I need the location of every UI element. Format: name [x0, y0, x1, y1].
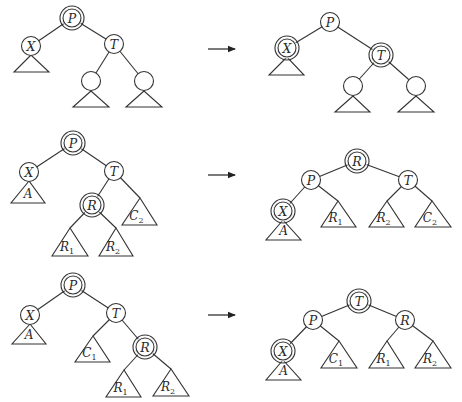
node-label: X — [278, 204, 289, 219]
subtree-triangle: R2 — [153, 369, 189, 396]
subtrees-layer: AC2R1R2AR1R2C2AC1R1R2AC1R1R2 — [11, 55, 451, 397]
subtree-triangle: C2 — [122, 198, 157, 225]
node-label: P — [67, 11, 77, 26]
arrows-layer — [208, 49, 235, 315]
tree-node-x: X — [22, 37, 41, 56]
tree-node-r: R — [345, 149, 369, 173]
subtree-label: A — [278, 364, 288, 378]
node-label: R — [351, 154, 361, 169]
subtree-triangle: A — [11, 181, 45, 203]
node-circle — [407, 77, 426, 96]
tree-node-x: X — [271, 199, 295, 223]
node-label: X — [26, 39, 37, 54]
subtree-label: A — [24, 328, 34, 342]
triangle-shape — [398, 96, 434, 112]
subtree-triangle: R2 — [369, 201, 404, 227]
tree-node-r: R — [396, 311, 415, 330]
node-label: R — [86, 198, 96, 213]
subtree-triangle — [126, 91, 162, 107]
tree-node-x: X — [275, 36, 299, 60]
subtree-triangle: C1 — [321, 341, 357, 368]
triangle-shape — [335, 96, 370, 112]
subtree-triangle — [335, 96, 370, 112]
tree-node-t: T — [107, 304, 126, 323]
subtree-triangle: R1 — [321, 201, 356, 227]
tree-node-empty — [82, 72, 101, 91]
subtree-triangle: A — [12, 324, 46, 344]
subtree-triangle — [398, 96, 434, 112]
triangle-shape — [14, 55, 49, 72]
tree-node-p: P — [304, 311, 323, 330]
subtree-triangle: R1 — [52, 228, 88, 256]
nodes-layer: PXTPXTPXTRRPTXPXTRTPRX — [20, 6, 426, 363]
node-circle — [344, 77, 363, 96]
edges-layer — [29, 18, 433, 370]
tree-node-p: P — [321, 13, 340, 32]
subtree-triangle: C2 — [415, 201, 451, 227]
tree-node-r: R — [133, 335, 157, 359]
tree-node-x: X — [271, 339, 295, 363]
tree-node-t: T — [105, 162, 124, 181]
subtree-triangle: R1 — [369, 341, 404, 368]
subtree-triangle — [14, 55, 49, 72]
node-label: X — [282, 41, 293, 56]
node-circle — [82, 72, 101, 91]
node-label: P — [325, 15, 335, 30]
subtree-triangle: R1 — [106, 370, 141, 397]
subtree-triangle: R2 — [415, 341, 451, 368]
subtree-triangle — [73, 91, 109, 107]
subtree-label: A — [23, 187, 33, 201]
tree-node-empty — [407, 77, 426, 96]
tree-node-p: P — [61, 131, 85, 155]
tree-node-empty — [344, 77, 363, 96]
tree-node-empty — [135, 72, 154, 91]
node-label: X — [25, 308, 36, 323]
tree-node-t: T — [369, 43, 393, 67]
node-label: P — [306, 173, 316, 188]
node-label: R — [139, 340, 149, 355]
tree-node-p: P — [302, 171, 321, 190]
tree-node-t: T — [105, 35, 124, 54]
node-circle — [135, 72, 154, 91]
node-label: R — [399, 313, 409, 328]
node-label: X — [24, 165, 35, 180]
tree-node-t: T — [399, 171, 418, 190]
subtree-triangle: C1 — [75, 336, 110, 362]
node-label: X — [278, 344, 289, 359]
subtree-triangle: R2 — [99, 228, 133, 256]
node-label: P — [68, 136, 78, 151]
tree-node-x: X — [21, 306, 40, 325]
triangle-shape — [126, 91, 162, 107]
tree-node-p: P — [61, 273, 85, 297]
node-label: P — [308, 313, 318, 328]
subtree-label: A — [278, 224, 288, 238]
tree-node-x: X — [20, 163, 39, 182]
tree-node-t: T — [347, 289, 371, 313]
tree-rotation-diagram: AC2R1R2AR1R2C2AC1R1R2AC1R1R2 PXTPXTPXTRR… — [0, 0, 462, 402]
node-label: P — [68, 278, 78, 293]
triangle-shape — [73, 91, 109, 107]
tree-node-p: P — [60, 6, 84, 30]
tree-node-r: R — [80, 193, 104, 217]
